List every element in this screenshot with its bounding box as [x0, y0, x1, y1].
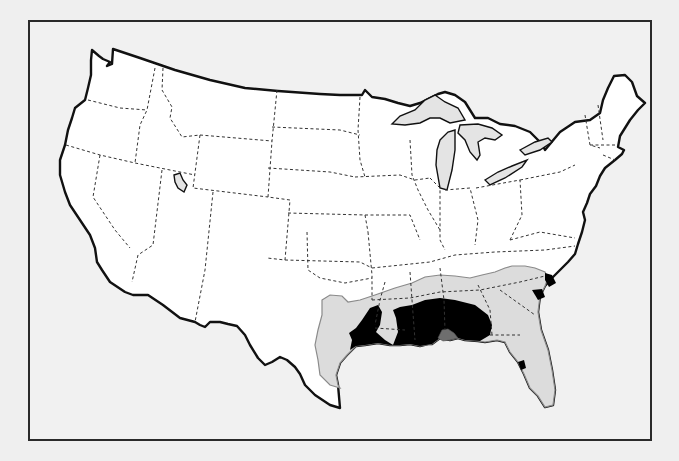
us-map [0, 0, 679, 461]
us-outline [60, 49, 645, 408]
